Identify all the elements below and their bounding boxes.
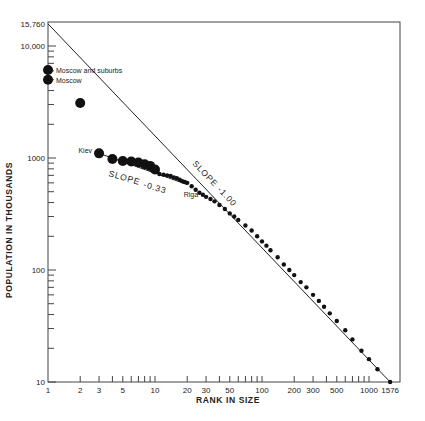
data-point [243, 223, 247, 227]
data-point [228, 211, 232, 215]
data-point [260, 239, 264, 243]
data-point [311, 293, 315, 297]
data-point [249, 228, 253, 232]
data-point [212, 199, 216, 203]
y-axis-tick-labels: 10100100010,00015,760 [21, 20, 46, 387]
x-axis-ticks [80, 376, 369, 382]
x-axis-title: RANK IN SIZE [196, 395, 260, 405]
data-point [282, 262, 286, 266]
x-tick-label: 200 [288, 386, 302, 395]
x-axis-tick-labels: 12351020305010020030050010001576 [46, 386, 400, 395]
data-point [322, 305, 326, 309]
reference-slope-label: SLOPE [191, 158, 221, 188]
y-tick-label: 15,760 [21, 20, 46, 29]
data-point [328, 311, 332, 315]
data-point [232, 214, 236, 218]
data-point [161, 172, 165, 176]
data-point [75, 98, 85, 108]
x-tick-label: 5 [121, 386, 126, 395]
city-label: Moscow and suburbs [56, 67, 123, 74]
data-point [350, 337, 354, 341]
data-point [189, 184, 193, 188]
x-tick-label: 20 [183, 386, 192, 395]
data-point [268, 248, 272, 252]
y-axis-ticks [48, 46, 56, 382]
data-point [335, 319, 339, 323]
y-axis-title: POPULATION IN THOUSANDS [4, 162, 14, 298]
data-point [343, 328, 347, 332]
data-point [299, 280, 303, 284]
data-point [43, 75, 53, 85]
x-tick-label: 1 [46, 386, 51, 395]
plot-frame [48, 22, 400, 382]
data-point [204, 195, 208, 199]
city-label: Kiev [78, 147, 92, 154]
data-point [107, 154, 117, 164]
x-tick-label: 1000 [360, 386, 378, 395]
data-point [375, 367, 379, 371]
fit-slope-label: SLOPE [107, 168, 141, 187]
x-tick-label: 30 [202, 386, 211, 395]
y-tick-label: 100 [32, 266, 46, 275]
data-point [287, 268, 291, 272]
y-tick-label: 1000 [27, 154, 45, 163]
data-point [255, 234, 259, 238]
data-point [236, 218, 240, 222]
x-tick-label: 100 [255, 386, 269, 395]
y-tick-label: 10 [36, 378, 45, 387]
data-point [223, 207, 227, 211]
x-tick-label: 10 [151, 386, 160, 395]
data-points [43, 65, 392, 384]
rank-size-chart: 10100100010,00015,760 123510203050100200… [0, 0, 425, 421]
data-point [43, 65, 53, 75]
data-point [275, 255, 279, 259]
data-point [388, 380, 392, 384]
data-point [292, 273, 296, 277]
city-label: Moscow [56, 77, 83, 84]
data-point [317, 299, 321, 303]
data-point [304, 285, 308, 289]
y-tick-label: 10,000 [21, 42, 46, 51]
data-point [185, 181, 189, 185]
data-point [217, 203, 221, 207]
data-point [264, 243, 268, 247]
x-tick-label: 2 [78, 386, 83, 395]
data-point [367, 357, 371, 361]
x-tick-label: 50 [225, 386, 234, 395]
data-point [94, 148, 104, 158]
data-point [359, 349, 363, 353]
fit-slope-value: -0.33 [142, 179, 167, 195]
x-tick-label: 3 [97, 386, 102, 395]
x-tick-label: 1576 [381, 386, 399, 395]
city-label: Riga [184, 191, 199, 199]
data-point [208, 197, 212, 201]
x-tick-label: 500 [330, 386, 344, 395]
x-tick-label: 300 [306, 386, 320, 395]
data-point [157, 172, 161, 176]
